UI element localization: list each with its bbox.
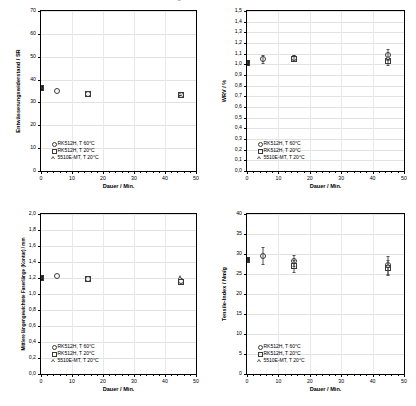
x-axis-minor-tick bbox=[66, 374, 67, 376]
y-axis-tick-label: 0,0 bbox=[235, 168, 242, 173]
legend-item-label: 5510E-MT, T 20°C bbox=[264, 357, 305, 365]
legend-triangle-icon bbox=[51, 155, 56, 160]
chart-panel-top-right: 0,00,10,20,30,40,50,60,70,80,91,01,11,21… bbox=[208, 0, 416, 203]
y-axis-tick-label: 0 bbox=[239, 371, 242, 376]
x-axis-tick bbox=[196, 374, 197, 377]
x-axis-minor-tick bbox=[316, 374, 317, 376]
y-axis-tick-label: 10 bbox=[30, 146, 36, 151]
x-axis-minor-tick bbox=[171, 374, 172, 376]
x-axis-minor-tick bbox=[291, 374, 292, 376]
figure-panel-grid: 01020304050607001020304050Dauer / Min.En… bbox=[0, 0, 416, 406]
gridline-horizontal bbox=[247, 86, 404, 87]
x-axis-minor-tick bbox=[140, 374, 141, 376]
x-axis-minor-tick bbox=[47, 171, 48, 173]
x-axis-tick bbox=[373, 374, 374, 377]
y-axis-tick-label: 0,9 bbox=[235, 72, 242, 77]
x-axis-tick-label: 40 bbox=[162, 379, 168, 384]
legend-circle-icon bbox=[257, 141, 262, 146]
y-axis-tick-label: 1,2 bbox=[29, 275, 36, 280]
error-bar-cap bbox=[293, 272, 296, 273]
x-axis-tick bbox=[41, 171, 42, 174]
gridline-horizontal bbox=[247, 118, 404, 119]
x-axis-minor-tick bbox=[366, 374, 367, 376]
x-axis-tick-label: 0 bbox=[246, 379, 249, 384]
x-axis-minor-tick bbox=[122, 171, 123, 173]
y-axis-title: WRV / % bbox=[221, 80, 227, 103]
x-axis-minor-tick bbox=[347, 171, 348, 173]
gridline-vertical bbox=[165, 11, 166, 171]
data-point bbox=[260, 56, 266, 62]
plot-area: 01020304050607001020304050Dauer / Min.En… bbox=[40, 10, 197, 172]
x-axis-tick-label: 50 bbox=[401, 176, 407, 181]
data-point bbox=[247, 258, 249, 262]
gridline-horizontal bbox=[247, 274, 404, 275]
gridline-horizontal bbox=[247, 54, 404, 55]
x-axis-tick bbox=[373, 171, 374, 174]
gridline-horizontal bbox=[41, 102, 196, 103]
plot-area: 051015202530354001020304050Dauer / Min.T… bbox=[246, 213, 405, 375]
y-axis-tick-label: 0 bbox=[33, 168, 36, 173]
x-axis-tick-label: 20 bbox=[307, 379, 313, 384]
x-axis-minor-tick bbox=[304, 374, 305, 376]
gridline-horizontal bbox=[41, 57, 196, 58]
x-axis-minor-tick bbox=[177, 171, 178, 173]
y-axis-tick-label: 1,1 bbox=[235, 51, 242, 56]
y-axis-tick-label: 2,0 bbox=[29, 211, 36, 216]
chart-panel-bottom-right: 051015202530354001020304050Dauer / Min.T… bbox=[208, 203, 416, 406]
y-axis-tick-label: 0,8 bbox=[29, 307, 36, 312]
x-axis-minor-tick bbox=[115, 171, 116, 173]
x-axis-minor-tick bbox=[366, 171, 367, 173]
x-axis-minor-tick bbox=[322, 374, 323, 376]
gridline-horizontal bbox=[247, 128, 404, 129]
y-axis-tick-label: 35 bbox=[236, 231, 242, 236]
gridline-vertical bbox=[134, 214, 135, 374]
y-axis-tick-label: 0,2 bbox=[235, 147, 242, 152]
gridline-horizontal bbox=[41, 80, 196, 81]
chart-legend: RK512H, T 60°CRK512H, T 20°C5510E-MT, T … bbox=[51, 140, 99, 161]
x-axis-minor-tick bbox=[347, 374, 348, 376]
x-axis-minor-tick bbox=[78, 171, 79, 173]
data-point bbox=[247, 60, 249, 64]
y-axis-tick-label: 1,0 bbox=[29, 291, 36, 296]
x-axis-title: Dauer / Min. bbox=[310, 183, 342, 189]
gridline-vertical bbox=[165, 214, 166, 374]
x-axis-tick bbox=[103, 374, 104, 377]
x-axis-minor-tick bbox=[285, 171, 286, 173]
y-axis-tick-label: 50 bbox=[30, 54, 36, 59]
y-axis-tick-label: 0,0 bbox=[29, 371, 36, 376]
y-axis-title: Mittlere längengewichtete Faserlänge (Ko… bbox=[21, 219, 26, 369]
y-axis-tick-label: 1,4 bbox=[29, 259, 36, 264]
legend-item: 5510E-MT, T 20°C bbox=[257, 154, 305, 161]
data-point bbox=[41, 85, 43, 89]
x-axis-minor-tick bbox=[398, 171, 399, 173]
gridline-horizontal bbox=[247, 96, 404, 97]
plot-area: 0,00,10,20,30,40,50,60,70,80,91,01,11,21… bbox=[246, 10, 405, 172]
gridline-vertical bbox=[341, 214, 342, 374]
gridline-vertical bbox=[310, 11, 311, 171]
y-axis-tick-label: 1,2 bbox=[235, 40, 242, 45]
gridline-horizontal bbox=[247, 11, 404, 12]
data-point bbox=[178, 279, 184, 285]
x-axis-tick bbox=[134, 374, 135, 377]
gridline-horizontal bbox=[41, 278, 196, 279]
data-point bbox=[85, 276, 91, 282]
gridline-horizontal bbox=[41, 326, 196, 327]
data-point bbox=[386, 56, 390, 60]
x-axis-tick-label: 30 bbox=[338, 176, 344, 181]
x-axis-tick bbox=[404, 171, 405, 174]
y-axis-tick-label: 0,7 bbox=[235, 94, 242, 99]
x-axis-minor-tick bbox=[297, 171, 298, 173]
x-axis-minor-tick bbox=[329, 374, 330, 376]
gridline-horizontal bbox=[247, 314, 404, 315]
y-axis-tick-label: 15 bbox=[236, 311, 242, 316]
x-axis-tick-label: 30 bbox=[131, 176, 137, 181]
y-axis-tick-label: 5 bbox=[239, 351, 242, 356]
y-axis-tick-label: 70 bbox=[30, 8, 36, 13]
data-point bbox=[179, 92, 183, 96]
gridline-horizontal bbox=[247, 64, 404, 65]
legend-item-label: 5510E-MT, T 20°C bbox=[58, 154, 99, 162]
gridline-vertical bbox=[341, 11, 342, 171]
chart-legend: RK512H, T 60°CRK512H, T 20°C5510E-MT, T … bbox=[257, 343, 305, 364]
x-axis-minor-tick bbox=[285, 374, 286, 376]
error-bar-cap bbox=[261, 247, 264, 248]
